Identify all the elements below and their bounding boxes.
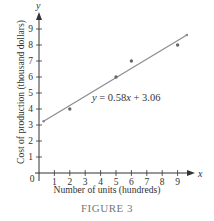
y-axis-label: Cost of production (thousand dollars): [15, 20, 26, 164]
x-axis-label: Number of units (hundreds): [0, 184, 214, 195]
y-axis-name: y: [35, 0, 41, 11]
line-endpoint: [186, 34, 189, 37]
y-tick-label: 4: [28, 104, 33, 114]
ticks: 123456789123456789: [28, 24, 180, 187]
data-point: [130, 59, 133, 62]
x-axis-arrow-icon: [187, 170, 195, 176]
data-point: [114, 75, 117, 78]
y-tick-label: 8: [28, 40, 33, 50]
y-axis-arrow-icon: [36, 12, 42, 20]
y-tick-label: 7: [28, 56, 33, 66]
y-tick-label: 3: [28, 120, 33, 130]
line-endpoint: [42, 120, 45, 123]
data-point: [68, 107, 71, 110]
origin-label: 0: [30, 174, 35, 184]
y-tick-label: 1: [28, 152, 33, 162]
x-axis-name: x: [197, 168, 203, 179]
y-tick-label: 2: [28, 136, 33, 146]
regression-equation: y = 0.58x + 3.06: [92, 92, 160, 103]
figure-caption: FIGURE 3: [0, 202, 214, 214]
data-point: [176, 43, 179, 46]
y-tick-label: 5: [28, 88, 33, 98]
y-tick-label: 9: [28, 24, 33, 34]
y-tick-label: 6: [28, 72, 33, 82]
